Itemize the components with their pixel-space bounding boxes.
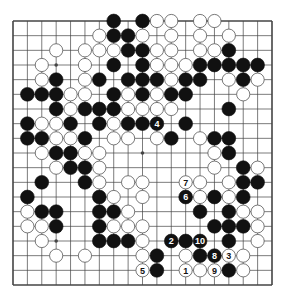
move-number-label: 9 [212, 266, 217, 276]
white-stone [107, 220, 120, 233]
black-stone [136, 14, 150, 28]
black-stone [164, 131, 178, 145]
black-stone [107, 58, 121, 72]
move-number-label: 4 [154, 119, 159, 129]
white-stone [251, 73, 264, 86]
black-stone [236, 175, 250, 189]
black-stone [236, 58, 250, 72]
black-stone [236, 190, 250, 204]
white-stone [122, 132, 135, 145]
black-stone [222, 43, 236, 57]
white-stone [50, 117, 63, 130]
black-stone [92, 219, 106, 233]
move-number-label: 8 [212, 251, 217, 261]
black-stone [222, 219, 236, 233]
black-stone [92, 190, 106, 204]
white-stone [222, 176, 235, 189]
black-stone [179, 87, 193, 101]
numbered-stone-9: 9 [208, 264, 221, 277]
white-stone [78, 146, 91, 159]
white-stone [64, 102, 77, 115]
black-stone [92, 117, 106, 131]
white-stone [136, 234, 149, 247]
white-stone [193, 190, 206, 203]
numbered-stone-2: 2 [164, 234, 178, 248]
black-stone [49, 205, 63, 219]
white-stone [237, 249, 250, 262]
black-stone [20, 87, 34, 101]
white-stone [251, 205, 264, 218]
white-stone [35, 58, 48, 71]
black-stone [222, 102, 236, 116]
black-stone [236, 73, 250, 87]
black-stone [179, 73, 193, 87]
numbered-stone-7: 7 [179, 176, 192, 189]
white-stone [208, 161, 221, 174]
white-stone [50, 249, 63, 262]
star-point [54, 63, 58, 67]
move-number-label: 6 [183, 192, 188, 202]
white-stone [122, 205, 135, 218]
white-stone [165, 73, 178, 86]
black-stone [222, 146, 236, 160]
white-stone [193, 29, 206, 42]
move-number-label: 1 [183, 266, 188, 276]
white-stone [193, 264, 206, 277]
black-stone [208, 219, 222, 233]
white-stone [208, 146, 221, 159]
white-stone [35, 234, 48, 247]
black-stone [222, 234, 236, 248]
black-stone [222, 263, 236, 277]
numbered-stone-4: 4 [150, 117, 164, 131]
white-stone [21, 205, 34, 218]
white-stone [251, 161, 264, 174]
white-stone [150, 88, 163, 101]
black-stone [78, 131, 92, 145]
black-stone [136, 73, 150, 87]
black-stone [78, 161, 92, 175]
white-stone [122, 176, 135, 189]
white-stone [136, 176, 149, 189]
black-stone [150, 249, 164, 263]
black-stone [222, 58, 236, 72]
numbered-stone-6: 6 [179, 190, 193, 204]
white-stone [251, 220, 264, 233]
white-stone [64, 88, 77, 101]
black-stone [179, 234, 193, 248]
numbered-stone-5: 5 [136, 264, 149, 277]
black-stone [136, 58, 150, 72]
white-stone [107, 117, 120, 130]
white-stone [165, 44, 178, 57]
white-stone [150, 14, 163, 27]
white-stone [222, 73, 235, 86]
black-stone [121, 29, 135, 43]
white-stone [78, 58, 91, 71]
move-number-label: 3 [226, 251, 231, 261]
black-stone [193, 58, 207, 72]
white-stone [93, 146, 106, 159]
white-stone [50, 44, 63, 57]
white-stone [150, 132, 163, 145]
white-stone [208, 14, 221, 27]
black-stone [136, 87, 150, 101]
black-stone [64, 117, 78, 131]
white-stone [122, 220, 135, 233]
black-stone [251, 58, 265, 72]
white-stone [179, 58, 192, 71]
black-stone [121, 73, 135, 87]
white-stone [251, 234, 264, 247]
black-stone [121, 117, 135, 131]
black-stone [64, 146, 78, 160]
black-stone [35, 131, 49, 145]
white-stone [237, 264, 250, 277]
black-stone [49, 146, 63, 160]
white-stone [35, 73, 48, 86]
numbered-stone-1: 1 [179, 264, 192, 277]
black-stone [107, 87, 121, 101]
black-stone [35, 205, 49, 219]
black-stone [150, 263, 164, 277]
black-stone [193, 249, 207, 263]
white-stone [35, 117, 48, 130]
white-stone [165, 102, 178, 115]
black-stone [136, 117, 150, 131]
